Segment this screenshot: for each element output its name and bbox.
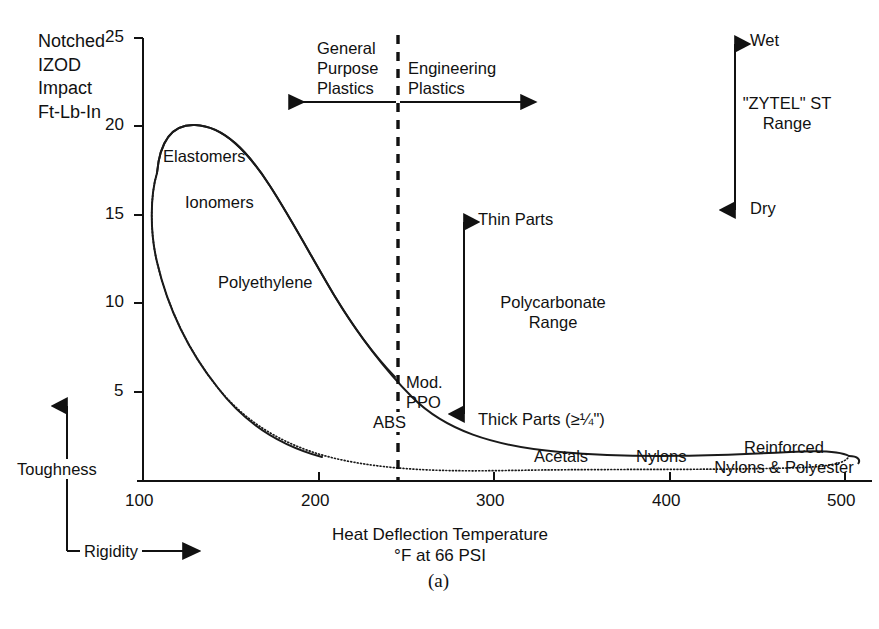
figure-caption: (a) — [428, 570, 449, 592]
x-axis-title-line-1: Heat Deflection Temperature — [290, 524, 590, 545]
zytel-line-2: Range — [717, 113, 857, 133]
zytel-st-range-label: "ZYTEL" ST Range — [717, 93, 857, 133]
y-tick-5: 5 — [114, 381, 123, 401]
figure-container: Notched IZOD Impact Ft-Lb-In 25 20 15 10… — [0, 0, 879, 629]
general-purpose-plastics-label: General Purpose Plastics — [317, 38, 378, 98]
y-axis-ticks — [134, 38, 143, 392]
y-axis-title: Notched IZOD Impact Ft-Lb-In — [38, 30, 105, 124]
general-purpose-line-3: Plastics — [317, 78, 378, 98]
toughness-label: Toughness — [14, 459, 100, 479]
y-axis-title-line-4: Ft-Lb-In — [38, 101, 105, 125]
x-axis-title: Heat Deflection Temperature °F at 66 PSI — [290, 524, 590, 566]
reinforced-line-2: Nylons & Polyester — [704, 457, 864, 477]
y-axis-title-line-1: Notched — [38, 30, 105, 54]
y-tick-15: 15 — [105, 204, 124, 224]
zytel-line-1: "ZYTEL" ST — [717, 93, 857, 113]
x-axis-title-line-2: °F at 66 PSI — [290, 545, 590, 566]
dry-label: Dry — [750, 198, 776, 218]
engineering-line-1: Engineering — [408, 58, 496, 78]
y-tick-20: 20 — [105, 115, 124, 135]
acetals-label: Acetals — [534, 446, 588, 466]
x-tick-200: 200 — [301, 491, 329, 511]
general-purpose-line-2: Purpose — [317, 58, 378, 78]
x-tick-400: 400 — [652, 491, 680, 511]
y-tick-10: 10 — [105, 292, 124, 312]
mod-ppo-label: Mod. PPO — [406, 372, 443, 412]
polycarbonate-line-2: Range — [478, 312, 628, 332]
elastomers-label: Elastomers — [163, 146, 246, 166]
reinforced-line-1: Reinforced — [704, 437, 864, 457]
mod-ppo-line-2: PPO — [406, 392, 443, 412]
engineering-plastics-label: Engineering Plastics — [408, 58, 496, 98]
envelope-lower-curve-solid-part — [152, 173, 322, 457]
x-tick-500: 500 — [827, 491, 855, 511]
general-purpose-line-1: General — [317, 38, 378, 58]
reinforced-nylons-polyester-label: Reinforced Nylons & Polyester — [704, 437, 864, 477]
y-axis-title-line-3: Impact — [38, 77, 105, 101]
ionomers-label: Ionomers — [185, 192, 254, 212]
polyethylene-label: Polyethylene — [218, 272, 312, 292]
thick-parts-label: Thick Parts (≥¼") — [478, 409, 605, 429]
mod-ppo-line-1: Mod. — [406, 372, 443, 392]
nylons-label: Nylons — [636, 446, 686, 466]
y-axis-title-line-2: IZOD — [38, 54, 105, 78]
wet-label: Wet — [750, 30, 779, 50]
x-tick-100: 100 — [125, 491, 153, 511]
polycarbonate-range-label: Polycarbonate Range — [478, 292, 628, 332]
engineering-line-2: Plastics — [408, 78, 496, 98]
polycarbonate-line-1: Polycarbonate — [478, 292, 628, 312]
thin-parts-label: Thin Parts — [478, 209, 553, 229]
abs-label: ABS — [371, 412, 408, 432]
x-tick-300: 300 — [476, 491, 504, 511]
y-tick-25: 25 — [105, 27, 124, 47]
rigidity-label: Rigidity — [80, 541, 142, 561]
